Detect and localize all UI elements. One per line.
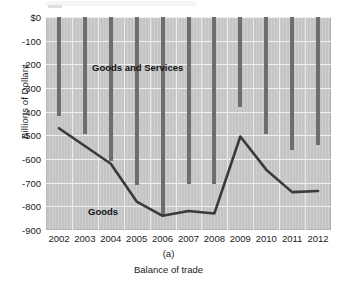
x-tick-label: 2010: [256, 233, 277, 244]
plot-area: [46, 17, 331, 230]
x-tick-label: 2002: [48, 233, 69, 244]
y-tick-label: $0: [7, 12, 41, 23]
x-tick-label: 2011: [282, 233, 302, 244]
y-tick-label: -300: [7, 83, 41, 94]
x-tick-label: 2007: [178, 233, 199, 244]
panel-label: (a): [0, 248, 337, 259]
y-tick-label: -100: [7, 35, 41, 46]
x-tick-label: 2003: [74, 233, 95, 244]
y-tick-label: -500: [7, 130, 41, 141]
x-tick-label: 2009: [230, 233, 251, 244]
y-axis-ticks: $0-100-200-300-400-500-600-700-800-900: [5, 0, 41, 282]
page-artifact: [46, 1, 196, 6]
line-series-goods: [46, 17, 331, 230]
annotation-goods: Goods: [88, 206, 118, 217]
x-tick-label: 2008: [204, 233, 225, 244]
figure-balance-of-trade: Billions of Dollars $0-100-200-300-400-5…: [0, 0, 337, 282]
annotation-goods-and-services: Goods and Services: [92, 62, 183, 73]
x-tick-label: 2004: [100, 233, 121, 244]
x-tick-label: 2005: [126, 233, 147, 244]
y-tick-label: -600: [7, 154, 41, 165]
y-tick-label: -400: [7, 106, 41, 117]
x-tick-label: 2012: [307, 233, 328, 244]
y-tick-label: -800: [7, 201, 41, 212]
y-tick-label: -200: [7, 59, 41, 70]
y-tick-label: -900: [7, 225, 41, 236]
y-tick-label: -700: [7, 177, 41, 188]
page-artifact-glyph: [48, 5, 62, 8]
x-tick-label: 2006: [152, 233, 173, 244]
figure-caption: Balance of trade: [0, 264, 337, 275]
